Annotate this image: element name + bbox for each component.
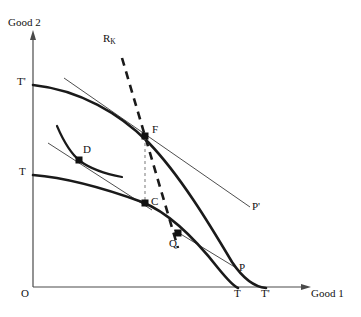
price-line-f-pprime — [64, 78, 250, 207]
diagram-canvas — [0, 0, 361, 317]
y-axis-label: Good 2 — [8, 17, 41, 28]
point-label-f: F — [152, 124, 158, 135]
point-marker-c — [142, 200, 149, 207]
ppf-diagram: Good 2 Good 1 O T' T T T' F D C Q P P' R… — [0, 0, 361, 317]
x-intercept-outer-label: T' — [261, 288, 270, 299]
y-intercept-outer-label: T' — [17, 76, 26, 87]
point-label-q: Q — [169, 238, 177, 249]
price-line-label-p-prime: P' — [252, 201, 260, 212]
y-axis — [30, 30, 36, 287]
ray-label-rk: RK — [103, 33, 116, 44]
y-intercept-inner-label: T — [19, 166, 26, 177]
ray-rk-dashed — [122, 58, 178, 248]
price-line-q-p — [174, 230, 238, 269]
point-marker-f — [142, 133, 149, 140]
point-marker-d — [76, 157, 83, 164]
origin-label: O — [21, 288, 29, 299]
ray-label-rk-sub: K — [110, 37, 115, 46]
x-axis-label: Good 1 — [311, 288, 344, 299]
inner-ppf-curve — [33, 175, 238, 288]
point-label-d: D — [83, 144, 91, 155]
outer-ppf-curve — [33, 85, 266, 288]
point-label-c: C — [151, 196, 158, 207]
point-marker-q — [175, 230, 182, 237]
price-line-label-p: P — [239, 262, 245, 273]
x-intercept-inner-label: T — [234, 288, 241, 299]
